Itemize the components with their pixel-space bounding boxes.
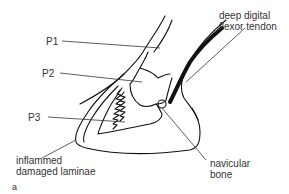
deep-digital-flexor-tendon <box>170 28 222 102</box>
label-navicular-bone: navicular bone <box>210 158 250 180</box>
leader-p1 <box>62 41 160 48</box>
p3-bone-outline <box>98 88 162 134</box>
panel-label: a <box>12 182 17 193</box>
p1-p2-joint <box>140 52 170 78</box>
label-p1: P1 <box>46 36 58 47</box>
pastern-back-outline <box>154 20 172 52</box>
label-inflammed-damaged-laminae: inflammed damaged laminae <box>16 155 96 177</box>
p2-bone-outline <box>130 68 172 107</box>
label-p3: P3 <box>28 112 40 123</box>
laminae-zigzag-2 <box>120 92 125 121</box>
leader-p2 <box>60 73 142 82</box>
label-p2: P2 <box>42 68 54 79</box>
pastern-front-outline <box>80 16 165 104</box>
label-deep-digital-flexor-tendon: deep digital flexor tendon <box>219 10 277 32</box>
